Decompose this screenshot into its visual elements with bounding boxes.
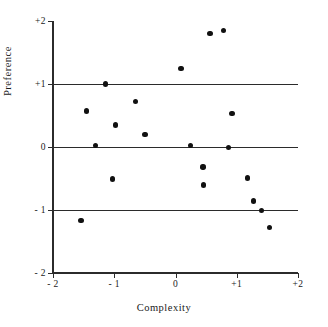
data-point <box>200 164 205 169</box>
data-point <box>113 122 118 127</box>
data-point <box>78 218 83 223</box>
data-point <box>267 225 272 230</box>
y-tick-mark <box>48 21 53 22</box>
data-point <box>178 66 183 71</box>
y-tick-label: - 2 <box>35 268 47 278</box>
y-tick-label: - 1 <box>35 205 47 215</box>
data-point <box>110 176 115 181</box>
data-point <box>259 208 264 213</box>
x-tick-mark <box>176 273 177 278</box>
data-point <box>142 132 147 137</box>
data-point <box>229 111 234 116</box>
data-point <box>103 81 108 86</box>
gridline-y <box>53 147 298 148</box>
y-tick-label: 0 <box>41 142 46 152</box>
data-point <box>245 175 250 180</box>
x-axis-title: Complexity <box>0 302 328 313</box>
scatter-plot-figure: +2+10- 1- 2 - 2- 10+1+2 Preference Compl… <box>0 0 328 327</box>
x-tick-label: - 2 <box>47 279 59 289</box>
x-tick-label: +2 <box>293 279 304 289</box>
plot-area: +2+10- 1- 2 - 2- 10+1+2 <box>53 21 298 273</box>
data-point <box>207 31 212 36</box>
gridline-y <box>53 84 298 85</box>
y-tick-mark <box>48 147 53 148</box>
y-tick-label: +1 <box>35 79 46 89</box>
y-tick-mark <box>48 210 53 211</box>
x-tick-mark <box>53 273 54 278</box>
data-point <box>84 108 89 113</box>
data-point <box>201 182 206 187</box>
x-tick-label: - 1 <box>109 279 121 289</box>
x-tick-mark <box>237 273 238 278</box>
x-tick-mark <box>114 273 115 278</box>
y-axis-title: Preference <box>2 46 13 96</box>
y-tick-mark <box>48 84 53 85</box>
data-point <box>251 198 256 203</box>
data-point <box>221 28 226 33</box>
data-point <box>226 145 231 150</box>
data-point <box>133 99 138 104</box>
x-tick-label: +1 <box>231 279 242 289</box>
x-tick-mark <box>298 273 299 278</box>
x-tick-label: 0 <box>173 279 178 289</box>
y-tick-label: +2 <box>35 16 46 26</box>
